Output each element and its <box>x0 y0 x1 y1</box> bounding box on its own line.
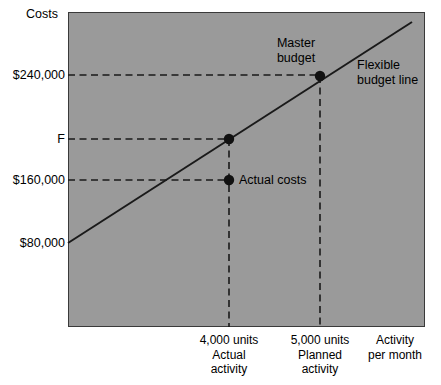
master-budget-annotation-line1: Master <box>258 36 334 51</box>
y-tick-label-240000: $240,000 <box>13 68 65 82</box>
y-tick-label-160000: $160,000 <box>13 173 65 187</box>
master-budget-annotation-line2: budget <box>258 51 334 66</box>
x-axis-title-line1: Activity <box>352 333 438 348</box>
y-axis-title: Costs <box>26 7 58 21</box>
y-tick-label-f: F <box>57 132 65 146</box>
flexible-budget-line-annotation-line2: budget line <box>357 73 418 88</box>
y-tick-label-80000: $80,000 <box>20 236 65 250</box>
x-axis-title-line2: per month <box>352 348 438 363</box>
actual-costs-annotation: Actual costs <box>239 173 306 188</box>
flexible-budget-chart: Costs $240,000 F $160,000 $80,000 Master… <box>0 0 441 385</box>
x-tick-5000-line3: activity <box>265 362 375 377</box>
master-budget-annotation: Master budget <box>258 36 334 65</box>
flexible-budget-line-annotation: Flexible budget line <box>357 58 418 87</box>
x-axis-title: Activity per month <box>352 333 438 362</box>
flexible-budget-line-annotation-line1: Flexible <box>357 58 418 73</box>
